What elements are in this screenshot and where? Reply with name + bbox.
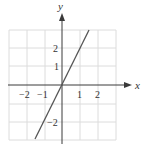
axes [8, 18, 127, 144]
x-tick-label: −1 [37, 89, 48, 100]
x-axis-arrow-icon [124, 82, 132, 88]
x-tick-label: −2 [19, 89, 30, 100]
y-axis-arrow-icon [59, 13, 65, 21]
y-axis-label: y [57, 0, 63, 12]
y-tick-label: −2 [47, 117, 58, 128]
y-tick-label: 1 [54, 61, 59, 72]
x-tick-label: 1 [77, 89, 82, 100]
coordinate-plane: x y −2 −1 1 2 2 1 −2 [0, 0, 142, 148]
y-tick-label: 2 [53, 43, 58, 54]
x-tick-label: 2 [95, 89, 100, 100]
x-axis-label: x [134, 79, 140, 91]
